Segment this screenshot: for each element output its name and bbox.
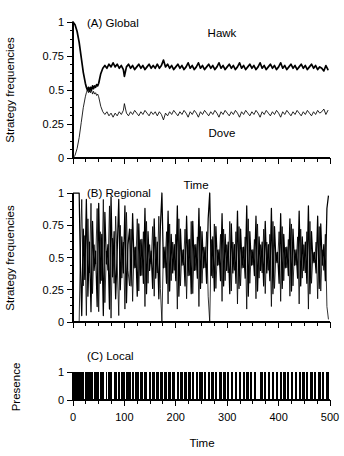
presence-bar [132,372,134,400]
panel-c-x-axis-title: Time [189,437,214,449]
presence-bar [299,372,301,400]
y-tick-label: 1 [58,366,64,378]
y-tick-label: 1 [58,16,64,28]
presence-bar [215,372,217,400]
y-tick-label: 0 [58,316,64,328]
presence-bar [135,372,139,400]
presence-bar [85,372,93,400]
presence-bar [149,372,152,400]
presence-bar [196,372,198,400]
presence-bar [260,372,263,400]
presence-bar [239,372,242,400]
presence-bar [94,372,99,400]
presence-bar [223,372,226,400]
presence-bar [310,372,313,400]
panel-a-dove-label: Dove [209,127,236,139]
x-tick-label: 300 [218,411,236,423]
panel-a-y-axis-title: Strategy frequencies [4,37,16,143]
presence-bar [126,372,131,400]
presence-bar [243,372,245,400]
presence-bar [152,372,155,400]
presence-bar [188,372,191,400]
presence-bar [177,372,179,400]
presence-bar [306,372,308,400]
presence-bar [322,372,324,400]
y-tick-label: 0.5 [49,84,64,96]
panel-c-presence-bars [74,372,330,400]
y-tick-label: 0.25 [43,284,64,296]
presence-bar [100,372,104,400]
presence-bar [254,372,256,400]
panel-b-label: (B) Regional [87,187,151,199]
y-tick-label: 0.75 [43,219,64,231]
presence-bar [164,372,166,400]
presence-bar [227,372,229,400]
presence-bar [199,372,202,400]
presence-bar [204,372,207,400]
presence-bar [268,372,271,400]
panel-a-hawk-label: Hawk [208,27,237,39]
presence-bar [172,372,175,400]
presence-bar [121,372,125,400]
presence-bar [272,372,274,400]
y-tick-label: 0.75 [43,50,64,62]
x-tick-label: 400 [269,411,287,423]
presence-bar [280,372,282,400]
presence-bar [180,372,183,400]
x-tick-label: 200 [167,411,185,423]
panel-c-y-axis-title: Presence [10,363,22,412]
presence-bar [264,372,266,400]
presence-bar [235,372,237,400]
strategy-frequencies-figure: 00.250.50.751 Strategy frequencies (A) G… [0,0,344,456]
presence-bar [276,372,279,400]
panel-a-label: (A) Global [87,17,139,29]
presence-bar [192,372,195,400]
y-tick-label: 0.5 [49,252,64,264]
x-tick-label: 0 [70,411,76,423]
y-tick-label: 0.25 [43,118,64,130]
presence-bar [160,372,163,400]
presence-bar [314,372,316,400]
presence-bar [140,372,143,400]
x-tick-label: 100 [115,411,133,423]
presence-bar [211,372,214,400]
stray-time-label: Time [183,179,208,191]
presence-bar [250,372,253,400]
y-tick-label: 0 [58,152,64,164]
panel-b-y-axis-title: Strategy frequencies [4,205,16,311]
presence-bar [118,372,120,400]
presence-bar [246,372,249,400]
presence-bar [291,372,293,400]
presence-bar [318,372,321,400]
presence-bar [287,372,289,400]
presence-bar [208,372,210,400]
presence-bar [302,372,305,400]
presence-bar [231,372,234,400]
presence-bar [184,372,187,400]
presence-bar [144,372,147,400]
presence-bar [106,372,107,400]
y-tick-label: 1 [58,187,64,199]
presence-bar [114,372,118,400]
presence-bar [295,372,298,400]
y-tick-label: 0 [58,394,64,406]
presence-bar [283,372,286,400]
presence-bar [108,372,112,400]
presence-bar [326,372,330,400]
presence-bar [168,372,171,400]
panel-c-label: (C) Local [87,350,134,362]
figure-root: 00.250.50.751 Strategy frequencies (A) G… [0,0,344,456]
presence-bar [219,372,222,400]
x-tick-label: 500 [321,411,339,423]
presence-bar [74,372,84,400]
presence-bar [156,372,159,400]
